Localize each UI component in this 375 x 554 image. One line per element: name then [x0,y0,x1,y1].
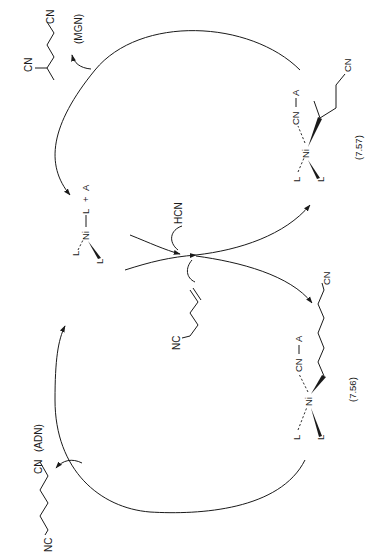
pentenenitrile-molecule: NC [171,288,201,350]
catalyst-l-left: L [70,251,81,256]
catalyst-a: A [80,184,91,191]
i756-ni: Ni [303,397,314,406]
i757-l-bottom: L [315,177,326,182]
catalyst-plus: + [80,196,91,202]
catalyst-l-bottom: L [94,259,105,264]
adn-molecule: CN NC (ADN) [33,424,54,552]
i756-l-bottom: L [315,435,326,440]
adn-nc: NC [43,538,54,552]
i757-cn: CN [290,111,301,125]
i757-ni: Ni [300,149,311,158]
i756-cn: CN [293,358,304,372]
i757-l-left: L [291,177,302,182]
i756-l-left: L [291,435,302,440]
catalyst-nil3: L Ni L + A L [70,184,105,264]
central-junction: HCN [125,202,312,303]
mgn-molecule: CN CN (MGN) [23,10,84,80]
mgn-cn-branch: CN [23,58,34,72]
mgn-cn-end: CN [45,10,56,24]
intermediate-7-57: L Ni CN A CN L (7.57) [290,58,364,182]
adn-release-arrow [56,460,82,468]
hcn-label: HCN [173,202,184,224]
intermediate-7-56: L Ni CN A CN L (7.56) [291,271,358,440]
i756-number: (7.56) [347,377,358,402]
adn-label: (ADN) [33,424,44,452]
adn-cn: CN [33,460,44,474]
i757-a: A [290,89,301,96]
i756-a: A [293,335,304,342]
i757-chain-cn: CN [342,58,353,72]
i757-number: (7.57) [353,135,364,160]
catalyst-ni: Ni [80,231,91,240]
lower-cycle-arc [55,326,305,513]
i756-chain-cn: CN [321,271,332,285]
catalyst-l-top: L [80,209,91,214]
mgn-release-arrow [72,55,91,69]
hydrocyanation-cycle-diagram: CN CN (MGN) L Ni L + A L HCN NC L Ni CN [0,0,375,554]
mgn-label: (MGN) [73,14,84,44]
pentenenitrile-nc: NC [171,336,182,350]
upper-cycle-arc [55,31,300,195]
